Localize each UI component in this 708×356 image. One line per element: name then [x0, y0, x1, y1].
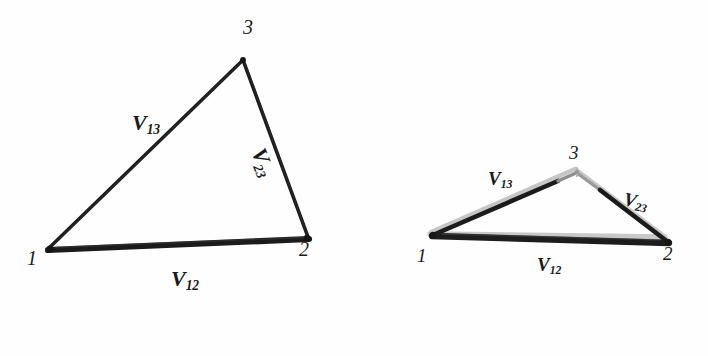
figure-canvas — [0, 0, 708, 356]
left-edge-v13-texture — [52, 62, 241, 246]
right-vertex-label-3: 3 — [569, 143, 579, 162]
right-edge-v13 — [433, 181, 558, 235]
left-vertex-label-2: 2 — [299, 239, 309, 259]
left-vertex-label-3: 3 — [243, 17, 253, 37]
right-vertex-1-node — [430, 232, 436, 238]
right-vertex-label-2: 2 — [663, 244, 673, 263]
left-vertex-3-node — [240, 57, 246, 63]
right-edge-label-v23: V23 — [622, 189, 650, 213]
right-edge-label-v13: V13 — [488, 169, 512, 188]
left-edge-label-v12-base: V — [171, 266, 186, 291]
figure-root: 1 2 3 V13 V23 V12 1 2 3 V13 V23 V12 — [0, 0, 708, 356]
right-edge-label-v12-base: V — [537, 254, 550, 275]
left-vertex-1-node — [47, 246, 54, 253]
left-edge-label-v13-base: V — [132, 110, 147, 135]
right-edge-label-v13-base: V — [488, 168, 501, 189]
right-vertex-label-1: 1 — [417, 246, 427, 265]
right-vertex-3-node — [575, 170, 579, 174]
right-edge-label-v12-sub: 12 — [550, 264, 562, 277]
right-edge-label-v12: V12 — [537, 255, 561, 274]
left-edge-label-v13: V13 — [132, 112, 160, 134]
right-edge-label-v13-sub: 13 — [501, 178, 513, 191]
left-vertex-label-1: 1 — [27, 248, 37, 268]
right-edge-v23-fade — [577, 173, 600, 190]
left-edge-v12 — [48, 239, 309, 250]
left-edge-label-v12-sub: 12 — [186, 278, 199, 293]
left-edge-v23-texture — [245, 63, 307, 234]
left-edge-label-v13-sub: 13 — [147, 122, 160, 137]
left-edge-label-v12: V12 — [171, 268, 199, 290]
